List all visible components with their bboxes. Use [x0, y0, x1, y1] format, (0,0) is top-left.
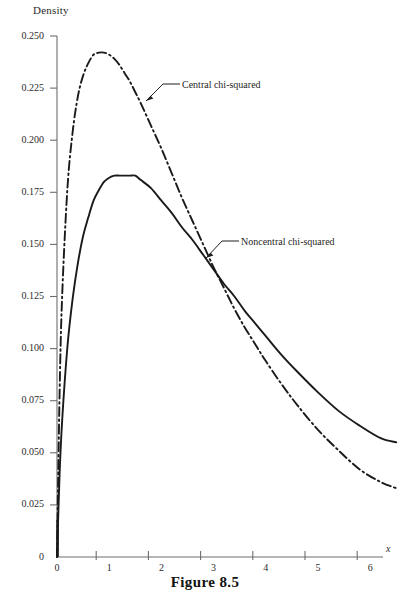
- curve-noncentral-chi-squared: [57, 175, 396, 557]
- x-tick-label: 6: [363, 562, 377, 573]
- x-tick-label: 1: [102, 562, 116, 573]
- x-tick-label: 2: [154, 562, 168, 573]
- y-tick-label: 0.250: [8, 30, 44, 41]
- x-tick-label: 3: [207, 562, 221, 573]
- y-tick-label: 0.050: [8, 446, 44, 457]
- y-tick-label: 0.100: [8, 342, 44, 353]
- leader-line-noncentral: [206, 241, 239, 258]
- y-tick-label: 0.175: [8, 186, 44, 197]
- annotation-central-chi-squared: Central chi-squared: [182, 79, 261, 90]
- y-tick-label: 0.025: [8, 498, 44, 509]
- y-tick-label: 0.125: [8, 290, 44, 301]
- y-tick-label: 0.225: [8, 82, 44, 93]
- leader-line-central: [146, 84, 180, 101]
- y-axis-label: Density: [33, 4, 69, 16]
- x-axis-ticks: [96, 551, 357, 560]
- x-tick-label: 4: [259, 562, 273, 573]
- chart-plot-area: [0, 0, 410, 607]
- y-axis-ticks: [50, 36, 57, 505]
- y-tick-label: 0: [8, 551, 44, 562]
- x-tick-label: 0: [50, 562, 64, 573]
- axes: [57, 36, 383, 557]
- curve-central-chi-squared: [57, 52, 396, 557]
- x-tick-label: 5: [311, 562, 325, 573]
- y-tick-label: 0.075: [8, 394, 44, 405]
- figure-caption: Figure 8.5: [0, 574, 410, 591]
- figure-container: Density x 00.0250.0500.0750.1000.1250.15…: [0, 0, 410, 607]
- annotation-noncentral-chi-squared: Noncentral chi-squared: [241, 236, 335, 247]
- y-tick-label: 0.150: [8, 238, 44, 249]
- x-axis-label: x: [386, 543, 391, 554]
- y-tick-label: 0.200: [8, 134, 44, 145]
